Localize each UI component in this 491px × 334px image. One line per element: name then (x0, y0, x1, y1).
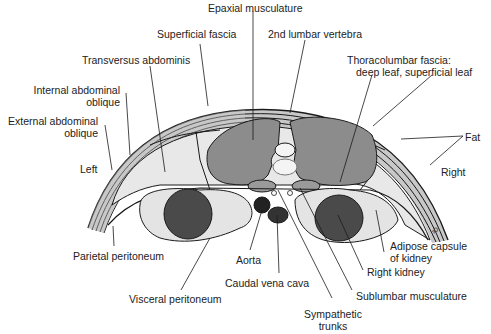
epaxial-muscle-right (290, 117, 377, 185)
label-caudal-vena-cava: Caudal vena cava (225, 277, 309, 289)
artist-signature: ꝓ (432, 225, 438, 234)
label-left: Left (80, 163, 98, 175)
label-adipose-capsule-1: Adipose capsule (390, 240, 467, 252)
label-aorta: Aorta (236, 254, 261, 266)
label-internal-abdominal-oblique-1: Internal abdominal (20, 84, 120, 96)
label-right: Right (441, 166, 466, 178)
label-external-abdominal-oblique-1: External abdominal (0, 115, 98, 127)
label-2nd-lumbar-vertebra: 2nd lumbar vertebra (268, 28, 362, 40)
caudal-vena-cava (268, 207, 288, 223)
label-right-kidney: Right kidney (367, 266, 425, 278)
label-thoracolumbar-fascia-1: Thoracolumbar fascia: (347, 54, 451, 66)
label-transversus-abdominis: Transversus abdominis (82, 54, 190, 66)
label-sublumbar-musculature: Sublumbar musculature (356, 290, 467, 302)
label-external-abdominal-oblique-2: oblique (0, 127, 98, 139)
label-sympathetic-trunks-1: Sympathetic (298, 308, 368, 320)
label-parietal-peritoneum: Parietal peritoneum (73, 250, 164, 262)
label-visceral-peritoneum: Visceral peritoneum (129, 293, 222, 305)
label-adipose-capsule-2: of kidney (390, 252, 432, 264)
label-superficial-fascia: Superficial fascia (157, 28, 236, 40)
label-thoracolumbar-fascia-2: deep leaf, superficial leaf (356, 66, 472, 78)
sympathetic-trunks (272, 191, 293, 196)
label-fat: Fat (465, 131, 480, 143)
left-kidney (164, 189, 212, 239)
label-internal-abdominal-oblique-2: oblique (20, 96, 120, 108)
label-epaxial-musculature: Epaxial musculature (208, 2, 303, 14)
label-sympathetic-trunks-2: trunks (298, 320, 368, 332)
